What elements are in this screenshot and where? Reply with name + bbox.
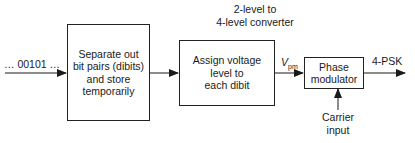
separator-line-3: and store [73,73,144,86]
converter-line-1: Assign voltage [193,54,261,67]
vpm-subscript: pm [288,63,298,70]
carrier-line-2: input [315,124,361,137]
converter-block: Assign voltage level to each dibit [179,40,275,106]
phase-modulator-block: Phase modulator [304,57,364,89]
output-label: 4-PSK [372,55,402,68]
converter-caption-line-2: 4-level converter [200,16,310,29]
converter-line-2: level to [193,67,261,80]
separator-line-2: bit pairs (dibits) [73,60,144,73]
carrier-line-1: Carrier [315,111,361,124]
vpm-main: V [281,56,288,68]
modulator-line-1: Phase [311,61,358,74]
separator-block: Separate out bit pairs (dibits) and stor… [67,24,150,121]
carrier-input-label: Carrier input [315,111,361,136]
separator-line-1: Separate out [73,48,144,61]
converter-caption: 2-level to 4-level converter [200,3,310,28]
vpm-label: Vpm [281,56,298,74]
separator-line-4: temporarily [73,85,144,98]
input-bitstream-label: … 00101 … [4,58,60,71]
modulator-line-2: modulator [311,73,358,86]
converter-caption-line-1: 2-level to [200,3,310,16]
converter-line-3: each dibit [193,79,261,92]
